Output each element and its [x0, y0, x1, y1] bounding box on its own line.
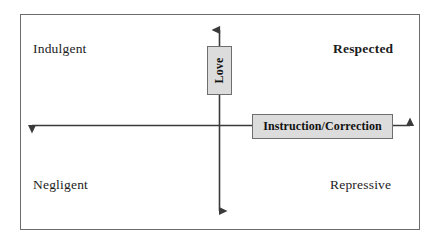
vertical-axis-label-box: Love [207, 46, 232, 95]
quadrant-label-indulgent: Indulgent [33, 41, 87, 57]
diagram-canvas: Indulgent Respected Negligent Repressive… [0, 0, 440, 244]
quadrant-label-repressive: Repressive [330, 177, 391, 193]
vertical-axis-label-text: Love [212, 57, 227, 83]
horizontal-axis-label-box: Instruction/Correction [252, 114, 393, 139]
horizontal-axis-label-text: Instruction/Correction [263, 119, 382, 134]
quadrant-label-negligent: Negligent [33, 177, 88, 193]
quadrant-label-respected: Respected [333, 41, 393, 57]
